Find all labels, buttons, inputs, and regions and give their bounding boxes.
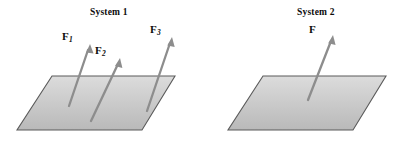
force-label-f3-symbol: F	[150, 23, 157, 35]
force-label-f2-subscript: 2	[102, 49, 106, 58]
force-label-f1: F1	[62, 31, 73, 43]
force-label-f3-subscript: 3	[157, 28, 161, 37]
system-2-plane	[228, 76, 386, 130]
force-label-f1-symbol: F	[62, 30, 69, 42]
system-1-title: System 1	[90, 8, 128, 18]
force-label-f: F	[309, 24, 316, 36]
force-label-f2: F2	[95, 45, 106, 57]
force-label-f3: F3	[150, 24, 161, 36]
system-1-plane	[17, 76, 175, 130]
force-label-f1-subscript: 1	[69, 35, 73, 44]
diagram-canvas	[0, 0, 409, 152]
physics-force-diagram: System 1 F1 F2 F3 System 2 F	[0, 0, 409, 152]
force-label-f2-symbol: F	[95, 44, 102, 56]
force-label-f-symbol: F	[309, 23, 316, 35]
system-2-title: System 2	[297, 8, 335, 18]
